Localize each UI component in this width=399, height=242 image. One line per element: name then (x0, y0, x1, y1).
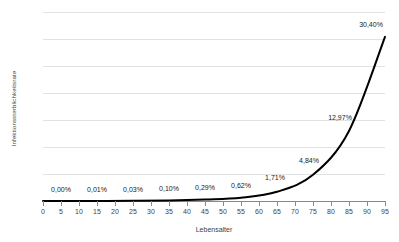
x-tick (187, 201, 188, 206)
data-point-label: 0,29% (195, 184, 215, 191)
y-axis-ticks: 0%5%10%15%20%25%30%35% (43, 12, 385, 201)
data-point-label: 0,03% (123, 185, 143, 192)
x-tick (385, 201, 386, 206)
data-point-label: 0,00% (51, 186, 71, 193)
x-tick (331, 201, 332, 206)
x-tick (241, 201, 242, 206)
x-tick (295, 201, 296, 206)
data-point-label: 0,01% (87, 185, 107, 192)
x-tick (349, 201, 350, 206)
data-point-label: 0,62% (231, 181, 251, 188)
x-axis-line (43, 201, 385, 202)
x-tick (169, 201, 170, 206)
data-point-label: 0,10% (159, 185, 179, 192)
x-tick-label: 95 (373, 208, 397, 215)
y-axis-title: Infektionssterblichkeitsrate (10, 34, 17, 184)
x-axis-title: Lebensalter (43, 226, 385, 233)
chart-container: Infektionssterblichkeitsrate 0%5%10%15%2… (0, 0, 399, 242)
data-point-label: 12,97% (328, 113, 352, 120)
x-tick (367, 201, 368, 206)
data-point-label: 30,40% (359, 20, 383, 27)
x-tick (61, 201, 62, 206)
x-tick (97, 201, 98, 206)
x-tick (115, 201, 116, 206)
data-point-label: 4,84% (299, 156, 319, 163)
x-tick (259, 201, 260, 206)
x-tick (151, 201, 152, 206)
x-tick (277, 201, 278, 206)
x-tick (313, 201, 314, 206)
x-tick (205, 201, 206, 206)
data-point-label: 1,71% (265, 173, 285, 180)
x-tick (79, 201, 80, 206)
x-tick (223, 201, 224, 206)
x-tick (43, 201, 44, 206)
x-tick (133, 201, 134, 206)
